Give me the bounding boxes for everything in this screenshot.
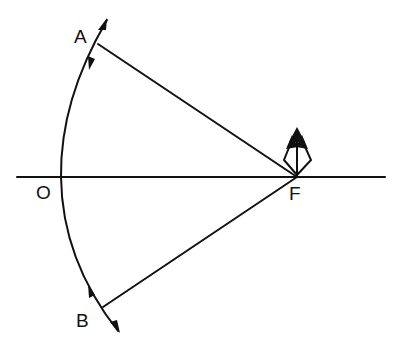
arrow-down-icon: [88, 56, 95, 70]
arrow-up-icon: [98, 18, 107, 30]
ray-b-to-f: [103, 177, 297, 307]
ray-a-to-f: [98, 44, 297, 177]
label-f: F: [289, 183, 301, 204]
label-b: B: [76, 310, 89, 331]
mirror-diagram: A O B F: [0, 0, 400, 346]
arrow-down-icon: [110, 320, 120, 333]
label-a: A: [74, 26, 87, 47]
label-o: O: [36, 182, 51, 203]
